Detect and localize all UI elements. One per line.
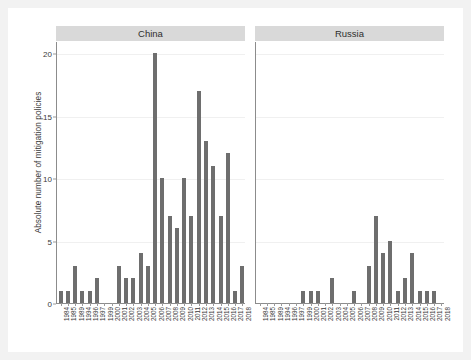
x-tick-label: 2007 (364, 307, 371, 321)
x-tick-mark (228, 303, 229, 306)
x-tick-label: 1984 (63, 307, 70, 321)
x-tick-mark (303, 303, 304, 306)
x-tick-label: 2013 (407, 307, 414, 321)
x-tick-label: 2009 (378, 307, 385, 321)
bar (204, 141, 208, 303)
x-tick-label: 1997 (298, 307, 305, 321)
x-tick-mark (177, 303, 178, 306)
y-axis-ticks: 05101520 (30, 8, 56, 352)
bar (168, 216, 172, 303)
bar (73, 266, 77, 303)
bar (352, 291, 356, 303)
x-tick-mark (82, 303, 83, 306)
x-tick-label: 1989 (277, 307, 284, 321)
x-tick-label: 2011 (194, 307, 201, 321)
y-tick-label: 10 (43, 175, 52, 184)
x-tick-mark (325, 303, 326, 306)
bar (403, 278, 407, 303)
bar (175, 228, 179, 303)
x-tick-mark (412, 303, 413, 306)
x-tick-mark (104, 303, 105, 306)
x-tick-mark (170, 303, 171, 306)
x-tick-label: 2008 (172, 307, 179, 321)
x-tick-label: 2011 (393, 307, 400, 321)
x-tick-mark (75, 303, 76, 306)
bar (330, 278, 334, 303)
y-tick-label: 5 (48, 237, 52, 246)
bar (124, 278, 128, 303)
bar (418, 291, 422, 303)
x-tick-mark (434, 303, 435, 306)
x-tick-mark (148, 303, 149, 306)
bar (301, 291, 305, 303)
x-tick-mark (274, 303, 275, 306)
bar (59, 291, 63, 303)
bar (316, 291, 320, 303)
x-tick-label: 1994 (284, 307, 291, 321)
x-tick-mark (340, 303, 341, 306)
x-tick-mark (281, 303, 282, 306)
x-tick-mark (141, 303, 142, 306)
x-tick-label: 2015 (422, 307, 429, 321)
x-tick-label: 2004 (143, 307, 150, 321)
x-tick-mark (97, 303, 98, 306)
x-tick-label: 2005 (150, 307, 157, 321)
x-tick-label: 1985 (269, 307, 276, 321)
x-tick-label: 1985 (70, 307, 77, 321)
bar (388, 241, 392, 303)
x-tick-mark (112, 303, 113, 306)
x-tick-label: 1997 (99, 307, 106, 321)
x-tick-mark (119, 303, 120, 306)
x-tick-mark (184, 303, 185, 306)
bar (197, 91, 201, 303)
bar (182, 178, 186, 303)
x-tick-mark (441, 303, 442, 306)
chart-figure: Absolute number of mitigation policies 0… (0, 0, 471, 360)
bar (309, 291, 313, 303)
x-tick-label: 2018 (245, 307, 252, 321)
bar (80, 291, 84, 303)
x-tick-label: 2003 (335, 307, 342, 321)
bar (117, 266, 121, 303)
bar (189, 216, 193, 303)
x-tick-mark (354, 303, 355, 306)
x-tick-label: 2014 (216, 307, 223, 321)
x-tick-mark (289, 303, 290, 306)
x-tick-label: 2004 (342, 307, 349, 321)
x-tick-mark (242, 303, 243, 306)
bar (139, 253, 143, 303)
bar (131, 278, 135, 303)
y-tick-label: 15 (43, 112, 52, 121)
x-tick-mark (332, 303, 333, 306)
bar (367, 266, 371, 303)
x-tick-mark (420, 303, 421, 306)
bar (425, 291, 429, 303)
x-tick-mark (296, 303, 297, 306)
bar (432, 291, 436, 303)
x-tick-mark (213, 303, 214, 306)
x-tick-mark (68, 303, 69, 306)
x-tick-mark (260, 303, 261, 306)
x-tick-mark (206, 303, 207, 306)
bar (146, 266, 150, 303)
x-tick-mark (398, 303, 399, 306)
x-tick-mark (376, 303, 377, 306)
bar (153, 53, 157, 303)
bar-series-china (57, 42, 245, 303)
x-tick-mark (405, 303, 406, 306)
x-tick-label: 2002 (327, 307, 334, 321)
bar (211, 166, 215, 303)
chart-canvas: Absolute number of mitigation policies 0… (8, 8, 463, 352)
x-tick-mark (361, 303, 362, 306)
x-tick-label: 1999 (306, 307, 313, 321)
bar (219, 216, 223, 303)
x-axis-ticks-china: 1984198519891994199619971999200020012002… (57, 303, 245, 360)
x-tick-mark (191, 303, 192, 306)
x-tick-label: 2015 (223, 307, 230, 321)
x-tick-label: 2003 (136, 307, 143, 321)
panel-title-russia: Russia (255, 26, 444, 41)
x-tick-label: 2017 (237, 307, 244, 321)
bar (66, 291, 70, 303)
x-tick-mark (90, 303, 91, 306)
x-tick-mark (162, 303, 163, 306)
